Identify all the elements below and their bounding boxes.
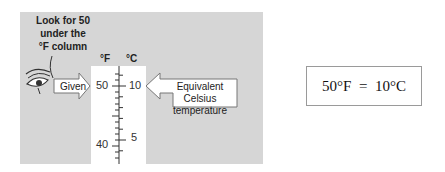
result-equation: 50°F = 10°C xyxy=(322,78,406,95)
result-box: 50°F = 10°C xyxy=(306,66,422,106)
eye-icon xyxy=(26,69,50,94)
note-pointer xyxy=(50,56,53,78)
equivalent-label: Equivalent Celsius temperature xyxy=(164,81,236,117)
given-label: Given xyxy=(60,81,86,92)
equivalent-line: Equivalent Celsius xyxy=(164,81,236,105)
equivalent-line: temperature xyxy=(164,105,236,117)
